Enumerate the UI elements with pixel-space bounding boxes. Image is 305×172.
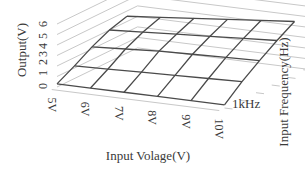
x-tick: 9V: [179, 114, 193, 129]
z-tick: 6: [36, 21, 50, 27]
x-tick: 6V: [78, 102, 92, 117]
z-tick: 4: [36, 43, 50, 49]
z-tick: 0: [36, 83, 50, 89]
z-axis-ticks: 0123456: [36, 21, 50, 89]
surface-chart: Output(V) 0123456 5V6V7V8V9V10V 1kHz Inp…: [0, 0, 305, 172]
x-tick: 5V: [45, 98, 59, 113]
x-axis-label: Input Volage(V): [106, 148, 190, 163]
surface-mesh: [57, 16, 295, 105]
x-axis-ticks: 5V6V7V8V9V10V: [45, 98, 227, 140]
y-axis-label: Input Frequency(Hz): [276, 37, 291, 146]
z-tick: 1: [36, 70, 50, 76]
y-tick-1khz: 1kHz: [232, 96, 260, 111]
x-tick: 7V: [112, 106, 126, 121]
x-tick: 10V: [212, 119, 226, 140]
z-tick: 5: [36, 33, 50, 39]
back-wall-gridlines: [57, 0, 305, 109]
axes: [52, 90, 220, 111]
z-axis-label: Output(V): [14, 23, 29, 77]
x-tick: 8V: [145, 110, 159, 125]
z-tick: 3: [36, 51, 50, 57]
z-tick: 2: [36, 59, 50, 65]
